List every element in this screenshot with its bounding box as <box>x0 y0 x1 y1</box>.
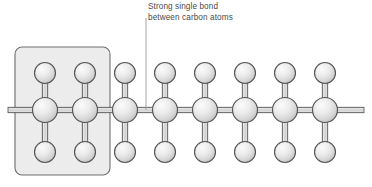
hydrogen-atom-bottom <box>235 142 256 163</box>
carbon-atom <box>193 98 218 123</box>
hydrogen-atom-bottom <box>275 142 296 163</box>
polymer-structure-svg <box>0 0 372 187</box>
hydrogen-atom-top <box>115 63 136 84</box>
hydrogen-atom-bottom <box>75 142 96 163</box>
hydrogen-atom-top <box>75 63 96 84</box>
hydrogen-atom-bottom <box>35 142 56 163</box>
hydrogen-atom-bottom <box>315 142 336 163</box>
hydrogen-atom-top <box>235 63 256 84</box>
hydrogen-atom-top <box>315 63 336 84</box>
polymer-diagram: Strong single bond between carbon atoms <box>0 0 372 187</box>
hydrogen-atom-top <box>35 63 56 84</box>
hydrogen-atom-bottom <box>195 142 216 163</box>
carbon-atom <box>153 98 178 123</box>
carbon-atom <box>33 98 58 123</box>
hydrogen-atom-top <box>155 63 176 84</box>
carbon-atom <box>273 98 298 123</box>
hydrogen-atom-top <box>275 63 296 84</box>
carbon-atom <box>233 98 258 123</box>
hydrogen-atom-bottom <box>115 142 136 163</box>
hydrogen-atom-top <box>195 63 216 84</box>
carbon-atom <box>113 98 138 123</box>
carbon-atom <box>313 98 338 123</box>
carbon-atom <box>73 98 98 123</box>
hydrogen-atom-bottom <box>155 142 176 163</box>
